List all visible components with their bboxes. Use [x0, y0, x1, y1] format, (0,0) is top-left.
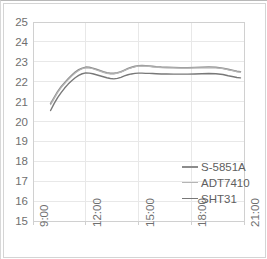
legend-item-label: ADT7410: [201, 177, 250, 189]
legend-line-swatch-icon: [182, 198, 198, 199]
chart-screenshot: 2524232221201918171615 9:0012:0015:0018:…: [0, 0, 267, 259]
x-axis-tick-marks: [33, 221, 244, 225]
x-axis-tick-label: 9:00: [38, 205, 50, 227]
x-axis-tick-label: 15:00: [144, 198, 156, 227]
legend-item: S-5851A: [182, 160, 246, 173]
y-axis-tick-label: 16: [6, 195, 28, 207]
y-axis-tick-label: 24: [6, 36, 28, 48]
legend-item-label: SHT31: [201, 193, 237, 205]
x-axis-tick-label: 21:00: [249, 198, 261, 227]
x-axis-tick-label: 12:00: [91, 198, 103, 227]
y-axis-tick-label: 21: [6, 96, 28, 108]
y-axis-tick-label: 15: [6, 215, 28, 227]
legend-line-swatch-icon: [182, 166, 198, 168]
y-axis-tick-label: 25: [6, 16, 28, 28]
y-axis-tick-label: 23: [6, 56, 28, 68]
legend-item: SHT31: [182, 192, 237, 205]
legend-item-label: S-5851A: [201, 161, 246, 173]
legend-item: ADT7410: [182, 176, 250, 189]
legend-line-swatch-icon: [182, 182, 198, 183]
y-axis-tick-label: 18: [6, 155, 28, 167]
y-axis-tick-label: 20: [6, 116, 28, 128]
series-line: [51, 66, 241, 105]
y-axis-tick-label: 19: [6, 135, 28, 147]
y-axis-tick-label: 17: [6, 175, 28, 187]
data-series-lines: [51, 66, 241, 111]
y-axis-tick-label: 22: [6, 76, 28, 88]
series-line: [51, 73, 241, 111]
series-line: [51, 66, 241, 104]
chart-frame: 2524232221201918171615 9:0012:0015:0018:…: [3, 3, 266, 258]
